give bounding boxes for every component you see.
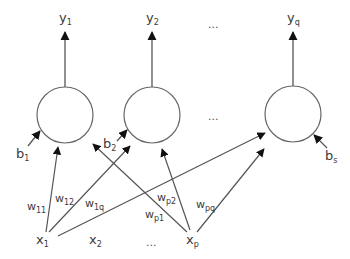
- edge-w12: [49, 146, 130, 232]
- neural-network-diagram: y1 y2 ... yq ... b1 b2 bs w11 w12 w1q wp…: [0, 0, 350, 259]
- input-ellipsis: ...: [146, 236, 157, 249]
- neuron-ellipsis: ...: [208, 110, 219, 123]
- neuron-2: [124, 87, 180, 143]
- bias-label-bs: bs: [325, 148, 337, 165]
- edge-w11: [46, 147, 58, 232]
- neuron-q: [265, 86, 321, 142]
- input-label-x1: x1: [36, 232, 49, 249]
- output-label-y2: y2: [146, 10, 159, 27]
- edge-wp1: [93, 144, 187, 232]
- edge-wp2: [162, 149, 190, 230]
- input-label-x2: x2: [89, 232, 102, 249]
- output-label-yq: yq: [287, 10, 300, 27]
- input-label-xp: xp: [186, 232, 199, 249]
- bias-label-b2: b2: [103, 136, 116, 153]
- weight-label-w12: w12: [55, 192, 74, 207]
- output-ellipsis: ...: [208, 18, 219, 31]
- weight-label-wp1: wp1: [145, 208, 164, 223]
- neuron-1: [37, 87, 93, 143]
- output-label-y1: y1: [59, 10, 72, 27]
- weight-label-wp2: wp2: [157, 191, 176, 206]
- bias-arrow-1: [28, 131, 40, 146]
- bias-arrow-s: [314, 135, 327, 148]
- weight-label-w1q: w1q: [85, 197, 104, 212]
- weight-label-w11: w11: [27, 200, 46, 215]
- weight-label-wpq: wpq: [196, 198, 215, 213]
- bias-arrow-2: [117, 130, 127, 141]
- bias-label-b1: b1: [16, 146, 29, 163]
